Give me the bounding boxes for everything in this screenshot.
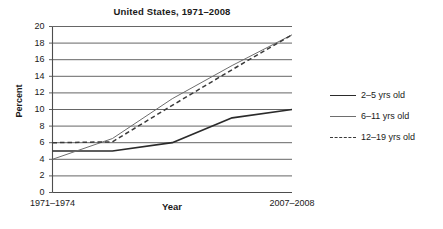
series-line-0 xyxy=(53,110,293,152)
y-tick-label: 10 xyxy=(23,105,45,114)
y-tick-label: 0 xyxy=(23,188,45,197)
y-tick-label: 6 xyxy=(23,138,45,147)
legend-line-swatch xyxy=(330,90,356,100)
y-tick-label: 14 xyxy=(23,72,45,81)
legend-item: 6–11 yrs old xyxy=(330,105,415,126)
series-line-1 xyxy=(53,35,293,160)
legend-item-label: 12–19 yrs old xyxy=(361,132,415,142)
chart-container: United States, 1971–2008 Percent Year 02… xyxy=(0,0,443,229)
y-tick-label: 4 xyxy=(23,155,45,164)
x-tick-label: 2007–2008 xyxy=(250,198,334,208)
y-tick-label: 2 xyxy=(23,171,45,180)
legend-item: 2–5 yrs old xyxy=(330,84,415,105)
y-tick-label: 20 xyxy=(23,22,45,31)
y-tick-label: 18 xyxy=(23,39,45,48)
y-tick-label: 12 xyxy=(23,88,45,97)
gridlines xyxy=(53,27,293,176)
legend-line-swatch xyxy=(330,111,356,121)
y-tick-label: 16 xyxy=(23,55,45,64)
legend-item-label: 2–5 yrs old xyxy=(361,90,405,100)
chart-legend: 2–5 yrs old6–11 yrs old12–19 yrs old xyxy=(330,84,415,147)
legend-item: 12–19 yrs old xyxy=(330,126,415,147)
legend-line-swatch xyxy=(330,132,356,142)
data-series-group xyxy=(53,35,293,160)
legend-item-label: 6–11 yrs old xyxy=(361,111,409,121)
y-tick-label: 8 xyxy=(23,122,45,131)
x-tick-label: 1971–1974 xyxy=(11,198,95,208)
